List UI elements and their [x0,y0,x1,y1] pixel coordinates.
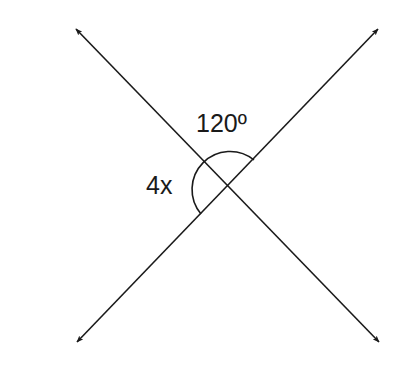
angle-label-120: 120º [196,109,247,137]
angle-label-4x: 4x [146,171,173,199]
intersecting-lines-diagram: 120º 4x [0,0,402,374]
angle-arc [192,152,254,214]
